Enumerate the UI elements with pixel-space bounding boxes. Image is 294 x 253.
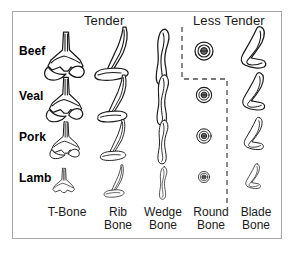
column-footer-round-bone: Round Bone (187, 206, 235, 232)
row-label-beef: Beef (19, 44, 45, 58)
row-label-veal: Veal (19, 89, 43, 103)
column-footer-round-bone-line2: Bone (187, 219, 235, 232)
column-group-header-tender: Tender (84, 13, 124, 28)
row-label-pork: Pork (19, 130, 46, 144)
column-footer-rib-bone: Rib Bone (97, 206, 139, 232)
column-footer-wedge-bone-line2: Bone (138, 219, 188, 232)
column-footer-rib-bone-line2: Bone (97, 219, 139, 232)
column-footer-t-bone: T-Bone (38, 206, 96, 219)
row-label-lamb: Lamb (19, 171, 51, 185)
column-footer-t-bone-line1: T-Bone (38, 206, 96, 219)
column-footer-wedge-bone: Wedge Bone (138, 206, 188, 232)
column-footer-blade-bone-line2: Bone (233, 219, 279, 232)
column-group-header-less-tender: Less Tender (193, 13, 265, 28)
bone-identification-chart: Tender Less Tender Beef Veal Pork Lamb (0, 0, 294, 253)
column-footer-blade-bone: Blade Bone (233, 206, 279, 232)
